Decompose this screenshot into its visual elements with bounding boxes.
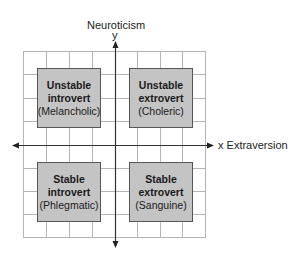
quadrant-title: Unstable <box>139 79 183 92</box>
quadrant-title: Unstable <box>47 79 91 92</box>
y-arrow-down-icon <box>113 241 119 248</box>
quadrant-title: Stable <box>145 173 177 186</box>
x-arrow-right-icon <box>207 143 214 149</box>
quadrant-subtitle: extrovert <box>139 186 184 199</box>
quadrant-phlegmatic: Stable introvert (Phlegmatic) <box>37 162 101 222</box>
quadrant-temperament: (Choleric) <box>138 105 184 118</box>
y-axis-letter: y <box>112 29 118 41</box>
quadrant-subtitle: introvert <box>48 186 91 199</box>
quadrant-temperament: (Sanguine) <box>135 199 186 212</box>
quadrant-temperament: (Melancholic) <box>38 105 100 118</box>
quadrant-subtitle: introvert <box>48 92 91 105</box>
quadrant-choleric: Unstable extrovert (Choleric) <box>129 68 193 128</box>
quadrant-temperament: (Phlegmatic) <box>40 199 99 212</box>
y-arrow-up-icon <box>113 41 119 48</box>
quadrant-title: Stable <box>53 173 85 186</box>
x-axis-label: x Extraversion <box>218 139 288 151</box>
quadrant-sanguine: Stable extrovert (Sanguine) <box>129 162 193 222</box>
quadrant-subtitle: extrovert <box>139 92 184 105</box>
quadrant-melancholic: Unstable introvert (Melancholic) <box>37 68 101 128</box>
x-arrow-left-icon <box>12 143 19 149</box>
